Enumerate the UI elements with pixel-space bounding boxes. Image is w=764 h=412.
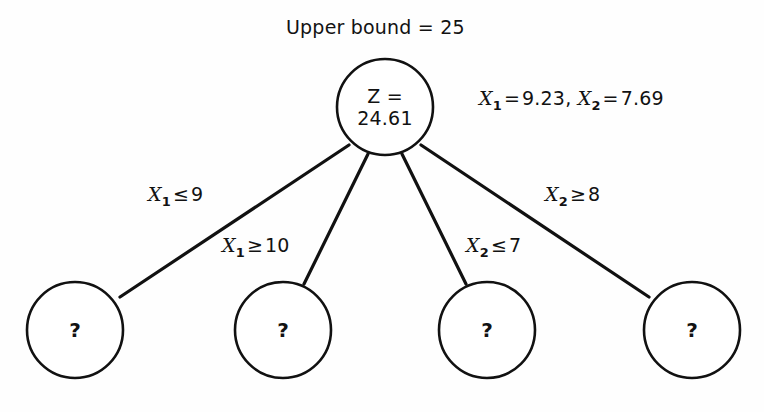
branch-label-x1-le-9: X1≤9 bbox=[148, 183, 203, 209]
branch2-value: 10 bbox=[265, 234, 290, 256]
branch-label-x2-ge-8: X2≥8 bbox=[545, 183, 600, 209]
edge-x1-le-9 bbox=[120, 145, 349, 297]
root-value-line: 24.61 bbox=[357, 107, 412, 129]
leaf-node-2-label: ? bbox=[233, 319, 333, 343]
branch2-var: X1 bbox=[222, 234, 245, 256]
solution-eq1: = bbox=[502, 87, 522, 109]
edge-x1-ge-10 bbox=[304, 154, 368, 284]
solution-var1: X1 bbox=[479, 87, 502, 109]
leaf-node-4-label: ? bbox=[642, 319, 742, 343]
branch1-operator: ≤ bbox=[171, 183, 191, 205]
edge-x2-ge-8 bbox=[421, 145, 649, 297]
solution-var2: X2 bbox=[578, 87, 601, 109]
branch1-var: X1 bbox=[148, 183, 171, 205]
solution-val2: 7.69 bbox=[621, 87, 664, 109]
branch4-var: X2 bbox=[545, 183, 568, 205]
upper-bound-title: Upper bound = 25 bbox=[286, 16, 465, 38]
solution-eq2: = bbox=[601, 87, 621, 109]
branch-label-x2-le-7: X2≤7 bbox=[466, 234, 521, 260]
root-z-line: Z = bbox=[367, 85, 403, 107]
branch4-value: 8 bbox=[588, 183, 600, 205]
branch3-value: 7 bbox=[509, 234, 521, 256]
leaf-node-1-label: ? bbox=[25, 319, 125, 343]
tree-graphics bbox=[0, 0, 764, 412]
branch2-operator: ≥ bbox=[245, 234, 265, 256]
branch3-var: X2 bbox=[466, 234, 489, 256]
branch1-value: 9 bbox=[191, 183, 203, 205]
edge-x2-le-7 bbox=[402, 154, 466, 284]
branch3-operator: ≤ bbox=[489, 234, 509, 256]
branch-and-bound-diagram: Upper bound = 25 Z = 24.61 X1=9.23, X2=7… bbox=[0, 0, 764, 412]
leaf-node-3-label: ? bbox=[437, 319, 537, 343]
root-solution-values: X1=9.23, X2=7.69 bbox=[479, 87, 664, 113]
solution-val1: 9.23, bbox=[522, 87, 571, 109]
branch-label-x1-ge-10: X1≥10 bbox=[222, 234, 290, 260]
root-node-label: Z = 24.61 bbox=[335, 85, 435, 130]
branch4-operator: ≥ bbox=[568, 183, 588, 205]
